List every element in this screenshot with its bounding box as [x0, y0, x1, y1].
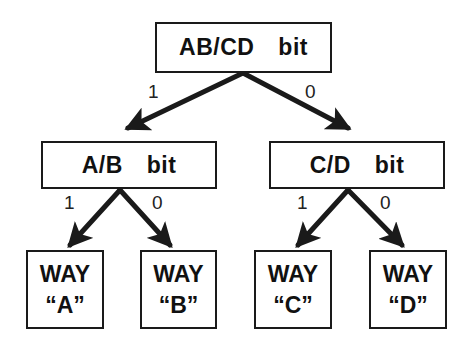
edge-label-ab-right: 0 — [152, 192, 163, 214]
leaf-b-line1: WAY — [153, 259, 203, 290]
node-ab-bit: bit — [147, 152, 177, 179]
leaf-way-a: WAY “A” — [26, 250, 104, 329]
leaf-a-line2: “A” — [45, 290, 85, 321]
leaf-a-line1: WAY — [40, 259, 90, 290]
node-cd-label: C/D — [310, 152, 351, 179]
root-node-label: AB/CD — [179, 34, 254, 61]
node-cd-bit: bit — [375, 152, 405, 179]
arrow-ab-to-a — [70, 190, 120, 245]
edge-label-cd-left: 1 — [297, 192, 308, 214]
node-ab-label: A/B — [82, 152, 123, 179]
edge-label-ab-left: 1 — [64, 192, 75, 214]
edge-label-root-left: 1 — [148, 81, 159, 103]
root-node-bit: bit — [278, 34, 308, 61]
arrow-root-to-ab — [128, 73, 243, 128]
leaf-d-line2: “D” — [388, 290, 428, 321]
arrow-cd-to-d — [348, 190, 402, 245]
leaf-way-c: WAY “C” — [254, 250, 332, 329]
leaf-way-b: WAY “B” — [140, 250, 217, 329]
leaf-b-line2: “B” — [159, 290, 199, 321]
leaf-d-line1: WAY — [383, 259, 433, 290]
leaf-way-d: WAY “D” — [369, 250, 447, 329]
leaf-c-line1: WAY — [268, 259, 318, 290]
leaf-c-line2: “C” — [273, 290, 313, 321]
node-cd-bit: C/D bit — [269, 141, 445, 189]
node-ab-bit: A/B bit — [41, 141, 217, 189]
root-node-ab-cd-bit: AB/CD bit — [155, 22, 332, 73]
edge-label-root-right: 0 — [305, 81, 316, 103]
arrow-root-to-cd — [243, 73, 348, 128]
edge-label-cd-right: 0 — [380, 192, 391, 214]
